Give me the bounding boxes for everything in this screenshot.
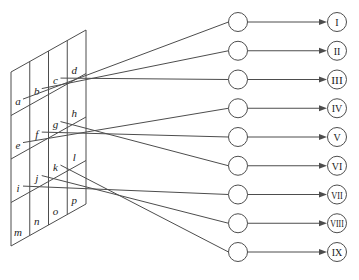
cell-label-a: a (15, 95, 21, 107)
cell-label-c: c (53, 74, 58, 86)
arrowhead-icon (319, 105, 327, 111)
cell-label-n: n (34, 215, 40, 227)
figure: abcdefghijklmnopIIIIIIIVVVIVIIVIIIIX (0, 0, 359, 280)
cell-label-o: o (53, 205, 59, 217)
connection-k-IX (61, 165, 229, 252)
connection-j-VIII (42, 176, 229, 224)
unit-label-IV: IV (332, 103, 343, 114)
unit-label-VI: VI (332, 161, 343, 172)
cell-label-e: e (16, 139, 21, 151)
arrowhead-icon (319, 134, 327, 140)
unit-label-VII: VII (331, 190, 343, 201)
unit-label-II: II (334, 46, 341, 57)
hidden-unit-circle-III (229, 70, 248, 89)
hidden-unit-circle-IX (229, 243, 248, 262)
cell-label-l: l (73, 151, 76, 163)
hidden-unit-circle-II (229, 41, 248, 60)
cell-label-j: j (33, 172, 38, 184)
unit-label-I: I (335, 17, 338, 28)
arrowhead-icon (319, 77, 327, 83)
cell-label-i: i (16, 182, 19, 194)
unit-label-V: V (333, 132, 341, 143)
arrowhead-icon (319, 163, 327, 169)
cell-label-m: m (14, 226, 22, 238)
cell-label-h: h (72, 107, 78, 119)
cell-label-g: g (53, 118, 59, 130)
unit-label-IX: IX (332, 247, 343, 258)
connection-a-I (23, 22, 229, 99)
unit-label-III: III (331, 75, 343, 86)
hidden-unit-circle-I (229, 13, 248, 32)
diagram-canvas: abcdefghijklmnopIIIIIIIVVVIVIIVIIIIX (0, 0, 359, 280)
cell-label-p: p (71, 194, 78, 206)
arrowhead-icon (319, 220, 327, 226)
hidden-unit-circle-IV (229, 99, 248, 118)
cell-label-k: k (53, 161, 59, 173)
connection-b-II (42, 51, 229, 89)
cell-label-d: d (72, 64, 78, 76)
cell-label-f: f (35, 128, 40, 140)
arrowhead-icon (319, 192, 327, 198)
hidden-unit-circle-VII (229, 185, 248, 204)
connection-i-VII (23, 186, 229, 194)
hidden-unit-circle-VI (229, 156, 248, 175)
arrowhead-icon (319, 249, 327, 255)
hidden-unit-circle-VIII (229, 214, 248, 233)
arrowhead-icon (319, 19, 327, 25)
hidden-unit-circle-V (229, 128, 248, 147)
unit-label-VIII: VIII (330, 218, 344, 229)
arrowhead-icon (319, 48, 327, 54)
